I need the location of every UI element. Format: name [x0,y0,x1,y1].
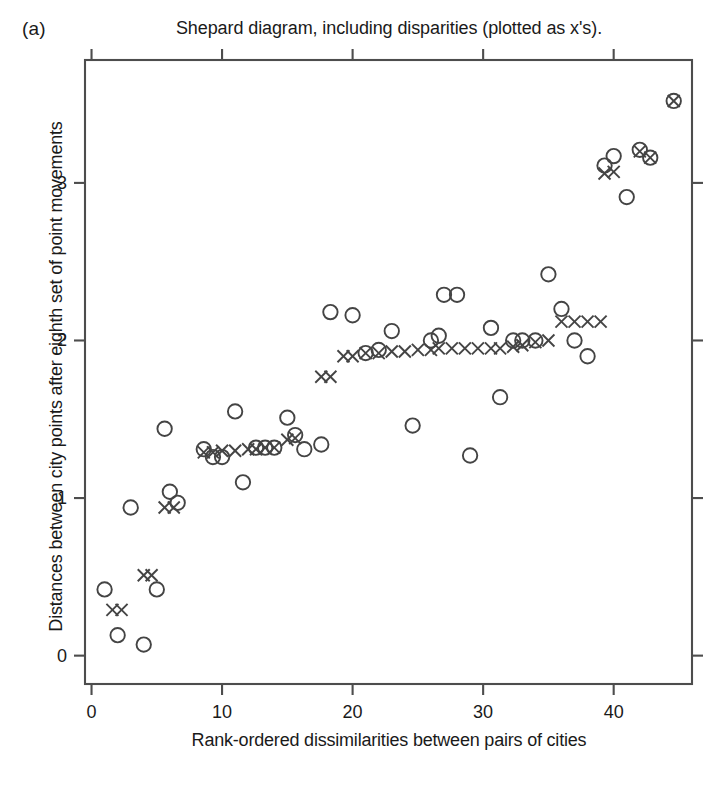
data-point-circle [157,422,171,436]
data-point-circle [110,628,124,642]
data-point-circle [228,404,242,418]
data-point-circle [463,448,477,462]
x-tick-label: 20 [343,702,363,722]
y-tick-label: 1 [57,488,67,508]
data-point-circle [567,333,581,347]
data-point-circle [323,305,337,319]
data-point-cross [146,569,158,581]
data-point-cross [529,336,541,348]
data-point-cross [644,152,656,164]
plot-axes: 0102030400123 [57,49,703,722]
data-point-circle [385,324,399,338]
plot-canvas: 0102030400123 [0,0,725,785]
data-point-circle [620,190,634,204]
data-point-circle [345,308,359,322]
data-point-cross [668,95,680,107]
data-point-circle [297,442,311,456]
x-tick-label: 40 [604,702,624,722]
data-point-cross [386,346,398,358]
data-point-cross [347,350,359,362]
data-point-circle [633,143,647,157]
data-point-cross [555,316,567,328]
shepard-diagram-figure: (a) Shepard diagram, including dispariti… [0,0,725,785]
data-point-cross [459,342,471,354]
data-point-cross [595,316,607,328]
data-point-circle [137,637,151,651]
data-point-cross [116,604,128,616]
data-point-circle [150,582,164,596]
data-point-circle [554,302,568,316]
y-tick-label: 0 [57,646,67,666]
data-point-circle [288,428,302,442]
y-tick-label: 2 [57,330,67,350]
data-point-cross [433,342,445,354]
x-tick-label: 0 [87,702,97,722]
data-point-cross [494,342,506,354]
data-point-circle [123,500,137,514]
data-point-circle [405,418,419,432]
data-point-circle [484,321,498,335]
data-point-cross [446,342,458,354]
data-markers [97,94,681,652]
data-point-cross [399,346,411,358]
data-point-circle [580,349,594,363]
data-point-circle [493,390,507,404]
data-point-cross [542,334,554,346]
data-point-circle [606,149,620,163]
data-point-cross [634,145,646,157]
data-point-circle [597,158,611,172]
data-point-cross [569,316,581,328]
plot-frame [85,60,692,684]
data-point-cross [268,442,280,454]
data-point-circle [97,582,111,596]
y-tick-label: 3 [57,173,67,193]
data-point-cross [472,342,484,354]
data-point-circle [541,267,555,281]
data-point-cross [360,347,372,359]
data-point-cross [324,371,336,383]
data-point-circle [280,410,294,424]
data-point-cross [412,344,424,356]
data-point-circle [236,475,250,489]
x-tick-label: 10 [212,702,232,722]
data-point-circle [314,437,328,451]
data-point-cross [168,502,180,514]
data-point-circle [372,343,386,357]
data-point-cross [582,316,594,328]
x-tick-label: 30 [473,702,493,722]
data-point-cross [229,445,241,457]
